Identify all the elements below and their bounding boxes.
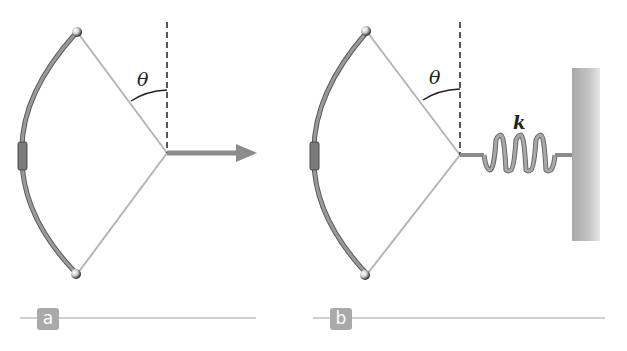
bow-string [368,33,460,273]
bow-grip [310,142,319,170]
spring-constant-label: k [513,112,525,133]
nock-top [361,26,371,36]
bow [310,26,371,280]
angle-arc [423,89,460,100]
theta-label-b: θ [429,66,440,88]
spring [460,135,573,171]
bow-grip [18,142,27,170]
bow-diagram [0,0,627,351]
panel-b-tag: b [330,308,352,330]
bow [18,27,82,279]
nock-bottom [360,270,370,280]
bow-string [78,33,167,273]
panel-b [310,22,600,280]
theta-label-a: θ [137,68,148,90]
panel-a-tag: a [37,308,59,330]
nock-bottom [71,269,81,279]
wall [572,68,600,241]
angle-arc [131,90,167,101]
pull-force-arrow [167,144,257,162]
nock-top [72,27,82,37]
panel-a [18,22,257,279]
